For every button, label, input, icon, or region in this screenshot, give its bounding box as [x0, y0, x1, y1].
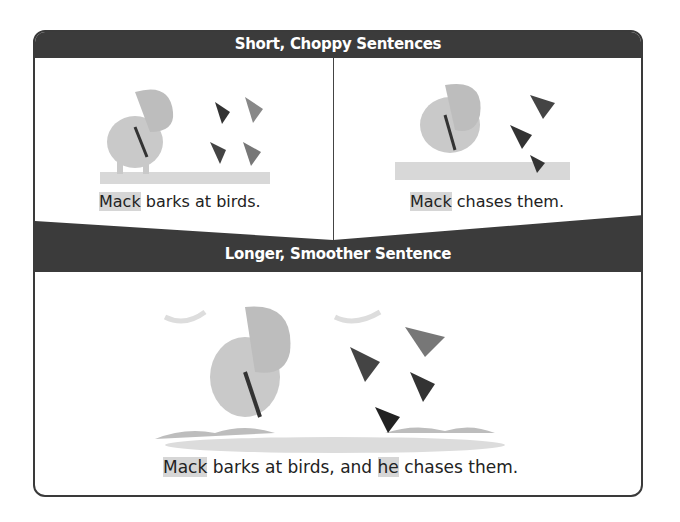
bottom-section-title: Longer, Smoother Sentence — [35, 245, 641, 263]
pronoun-highlight: he — [378, 457, 399, 477]
dog-barking-illustration — [95, 72, 285, 187]
dog-chasing-illustration — [390, 70, 590, 188]
subject-highlight: Mack — [163, 457, 207, 477]
sentence-comparison-card: Short, Choppy Sentences Longer, Smoother… — [33, 30, 643, 497]
panel-divider — [333, 58, 334, 240]
left-panel-caption: Mack barks at birds. — [99, 192, 261, 211]
bottom-caption: Mack barks at birds, and he chases them. — [163, 457, 518, 477]
subject-highlight: Mack — [410, 192, 452, 211]
right-panel-caption: Mack chases them. — [410, 192, 564, 211]
dog-and-flock-illustration — [145, 287, 525, 457]
subject-highlight: Mack — [99, 192, 141, 211]
